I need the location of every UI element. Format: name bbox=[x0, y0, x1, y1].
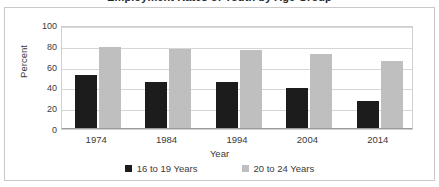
bar-group bbox=[344, 27, 414, 129]
bar-1974-series-0[interactable] bbox=[75, 75, 97, 129]
chart-legend: 16 to 19 Years20 to 24 Years bbox=[5, 163, 434, 174]
bar-1994-series-0[interactable] bbox=[216, 82, 238, 129]
legend-item-1[interactable]: 20 to 24 Years bbox=[242, 163, 315, 174]
bar-1984-series-1[interactable] bbox=[169, 49, 191, 129]
legend-swatch-icon bbox=[242, 165, 249, 172]
legend-label: 16 to 19 Years bbox=[137, 163, 198, 174]
x-tick-label-1994: 1994 bbox=[202, 134, 272, 145]
y-tick-label: 40 bbox=[31, 84, 57, 93]
bar-1984-series-0[interactable] bbox=[145, 82, 167, 129]
cropped-chart-title: Employment Rates of Youth by Age Group bbox=[0, 0, 439, 3]
bar-group bbox=[203, 27, 273, 129]
x-tick-label-2004: 2004 bbox=[272, 134, 342, 145]
bar-group bbox=[273, 27, 343, 129]
x-axis-title: Year bbox=[5, 148, 434, 159]
y-axis-ticks: 100806040200 bbox=[27, 26, 57, 130]
y-tick-label: 60 bbox=[31, 64, 57, 73]
y-tick-label: 20 bbox=[31, 105, 57, 114]
x-tick-label-1974: 1974 bbox=[61, 134, 131, 145]
legend-item-0[interactable]: 16 to 19 Years bbox=[125, 163, 198, 174]
y-tick-label: 80 bbox=[31, 43, 57, 52]
plot-area bbox=[61, 26, 413, 130]
x-axis-line bbox=[62, 128, 412, 129]
bar-2004-series-1[interactable] bbox=[310, 54, 332, 129]
bar-2014-series-1[interactable] bbox=[381, 61, 403, 129]
bar-2014-series-0[interactable] bbox=[357, 101, 379, 129]
bar-group bbox=[62, 27, 132, 129]
bar-1994-series-1[interactable] bbox=[240, 50, 262, 129]
y-tick-label: 0 bbox=[31, 126, 57, 135]
chart-frame: Percent 100806040200 1974198419942004201… bbox=[4, 7, 435, 181]
legend-swatch-icon bbox=[125, 165, 132, 172]
x-tick-label-2014: 2014 bbox=[343, 134, 413, 145]
bar-group bbox=[132, 27, 202, 129]
x-tick-label-1984: 1984 bbox=[132, 134, 202, 145]
legend-label: 20 to 24 Years bbox=[254, 163, 315, 174]
bar-2004-series-0[interactable] bbox=[286, 88, 308, 129]
y-tick-label: 100 bbox=[31, 22, 57, 31]
bar-1974-series-1[interactable] bbox=[99, 47, 121, 129]
